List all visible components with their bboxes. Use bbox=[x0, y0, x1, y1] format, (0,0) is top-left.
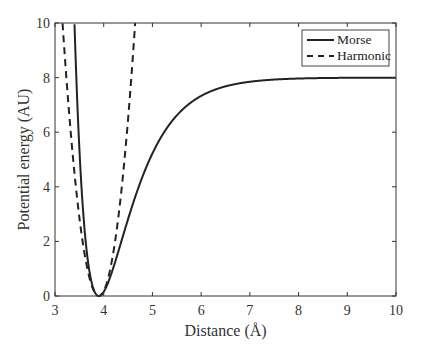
y-tick-label: 8 bbox=[43, 71, 50, 86]
y-tick-label: 6 bbox=[43, 125, 50, 140]
x-tick-label: 7 bbox=[246, 303, 253, 318]
legend: Morse Harmonic bbox=[302, 30, 391, 66]
x-tick-label: 3 bbox=[52, 303, 59, 318]
y-tick-label: 0 bbox=[43, 289, 50, 304]
x-axis-label: Distance (Å) bbox=[184, 322, 266, 340]
x-tick-label: 9 bbox=[344, 303, 351, 318]
chart-figure: 345678910 0246810 Distance (Å) Potential… bbox=[0, 0, 423, 352]
y-axis-label: Potential energy (AU) bbox=[15, 89, 33, 231]
y-tick-label: 10 bbox=[36, 16, 50, 31]
x-tick-label: 8 bbox=[295, 303, 302, 318]
y-tick-label: 4 bbox=[43, 180, 50, 195]
legend-label-morse: Morse bbox=[337, 32, 372, 47]
x-tick-label: 5 bbox=[149, 303, 156, 318]
legend-label-harmonic: Harmonic bbox=[337, 48, 391, 63]
harmonic-curve bbox=[63, 23, 136, 296]
x-tick-label: 4 bbox=[100, 303, 107, 318]
y-tick-label: 2 bbox=[43, 234, 50, 249]
x-axis: 345678910 bbox=[52, 23, 404, 318]
x-tick-label: 6 bbox=[198, 303, 205, 318]
x-tick-label: 10 bbox=[389, 303, 403, 318]
